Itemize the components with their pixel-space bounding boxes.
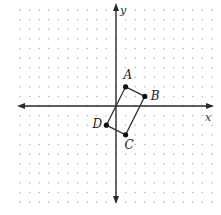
- y-axis-label: y: [119, 4, 127, 17]
- y-axis: y: [113, 3, 127, 204]
- vertex-d-point: [104, 123, 109, 128]
- x-axis-label: x: [205, 111, 212, 124]
- polygon-outline: [106, 87, 144, 135]
- vertex-d-label: D: [91, 117, 102, 131]
- y-axis-up-arrow-icon: [113, 3, 119, 11]
- y-axis-down-arrow-icon: [113, 196, 119, 204]
- vertex-b-point: [142, 94, 147, 99]
- x-axis-left-arrow-icon: [17, 103, 25, 109]
- vertex-b-label: B: [150, 89, 160, 103]
- vertex-c-label: C: [125, 138, 134, 152]
- coordinate-plane: x y ABCD: [0, 0, 221, 215]
- vertex-a-point: [123, 84, 128, 89]
- vertex-a-label: A: [123, 68, 133, 82]
- x-axis-right-arrow-icon: [206, 103, 214, 109]
- quadrilateral-abcd: ABCD: [91, 68, 159, 152]
- vertex-c-point: [123, 132, 128, 137]
